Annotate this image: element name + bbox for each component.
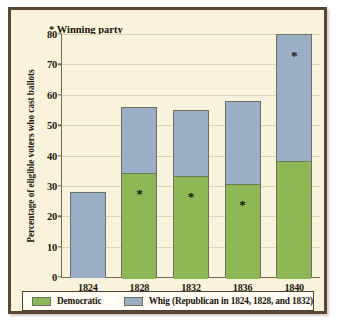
legend-swatch-whig-icon [124, 297, 143, 306]
chart-legend: Democratic Whig (Republican in 1824, 182… [22, 291, 314, 311]
bar-group[interactable]: 1824 [70, 34, 106, 277]
stacked-bar[interactable]: * [121, 107, 157, 277]
y-axis-tick-label: 40 [47, 150, 57, 161]
y-axis-tick-mark [58, 155, 62, 156]
winner-star-icon: * [188, 190, 195, 203]
legend-item-democratic: Democratic [32, 296, 101, 306]
y-axis-tick-mark [58, 33, 62, 34]
bar-segment-whig[interactable] [71, 193, 105, 278]
chart-figure-frame: * Winning party Percentage of eligible v… [8, 7, 327, 314]
y-axis-tick-label: 50 [47, 120, 57, 131]
legend-label-democratic: Democratic [57, 296, 101, 306]
winner-star-icon: * [136, 187, 143, 200]
stacked-bar[interactable]: * [173, 110, 209, 277]
y-axis-tick-mark [58, 185, 62, 186]
y-axis-tick-mark [58, 246, 62, 247]
bar-group[interactable]: *1836 [225, 34, 261, 277]
y-axis-tick-label: 0 [52, 272, 57, 283]
y-axis-tick-label: 70 [47, 59, 57, 70]
y-axis-tick-label: 30 [47, 180, 57, 191]
y-axis-title-text: Percentage of eligible voters who cast b… [26, 69, 36, 242]
stacked-bar[interactable]: * [276, 34, 312, 277]
chart-canvas: * Winning party Percentage of eligible v… [11, 10, 324, 311]
y-axis-tick-label: 80 [47, 29, 57, 40]
bar-segment-democratic[interactable]: * [174, 176, 208, 279]
legend-label-whig: Whig (Republican in 1824, 1828, and 1832… [149, 296, 313, 306]
bar-group[interactable]: *1840 [276, 34, 312, 277]
y-axis-tick-mark [58, 124, 62, 125]
bar-segment-democratic[interactable]: * [122, 173, 156, 279]
legend-item-whig: Whig (Republican in 1824, 1828, and 1832… [124, 296, 313, 306]
stacked-bar[interactable]: * [225, 101, 261, 277]
y-axis-tick-label: 20 [47, 211, 57, 222]
y-axis-tick-mark [58, 64, 62, 65]
bar-segment-whig[interactable] [122, 108, 156, 173]
bar-segment-whig[interactable] [226, 102, 260, 184]
y-axis-tick-label: 10 [47, 241, 57, 252]
legend-swatch-democratic-icon [32, 297, 51, 306]
stacked-bar[interactable] [70, 192, 106, 277]
y-axis-tick-label: 60 [47, 89, 57, 100]
y-axis-tick-mark [58, 216, 62, 217]
bar-segment-whig[interactable] [174, 111, 208, 176]
bar-segment-whig[interactable]: * [277, 35, 311, 161]
y-axis-tick-mark [58, 276, 62, 277]
plot-area: 010203040506070801824*1828*1832*1836*184… [61, 34, 320, 278]
winner-star-icon: * [239, 198, 246, 211]
bar-segment-democratic[interactable]: * [226, 184, 260, 279]
y-axis-title: Percentage of eligible voters who cast b… [23, 34, 39, 277]
y-axis-tick-mark [58, 94, 62, 95]
bar-segment-democratic[interactable] [277, 161, 311, 279]
bar-group[interactable]: *1832 [173, 34, 209, 277]
winner-star-icon: * [291, 49, 298, 62]
bar-group[interactable]: *1828 [121, 34, 157, 277]
